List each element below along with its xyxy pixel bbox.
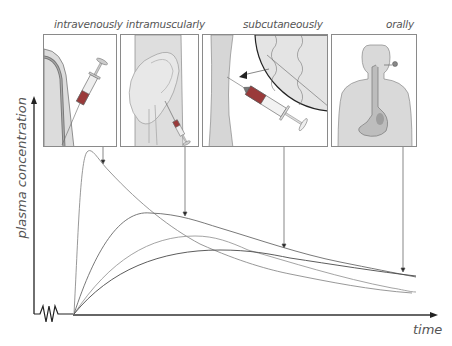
curve-subcutaneous [74, 236, 416, 314]
x-axis-arrowhead [430, 312, 438, 318]
curve-intramuscular [74, 213, 416, 314]
x-axis-label: time [413, 322, 442, 337]
y-axis-label: plasma concentration [14, 109, 29, 239]
curve-intravenous [74, 151, 412, 314]
axis-break-icon [34, 306, 73, 322]
y-axis-arrowhead [31, 96, 37, 104]
concentration-chart [0, 0, 452, 346]
connector-arrows [101, 147, 405, 272]
